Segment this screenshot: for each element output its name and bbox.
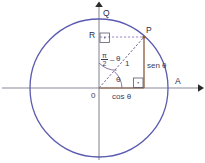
label-angle-theta: θ xyxy=(116,76,120,84)
label-point-a: A xyxy=(175,77,181,86)
label-radius-length: 1 xyxy=(125,60,129,68)
label-point-q: Q xyxy=(103,9,110,18)
point-p-marker xyxy=(142,35,145,38)
label-sine: sen θ xyxy=(147,62,167,70)
right-angle-marker-y-axis xyxy=(100,33,110,43)
label-complement-denominator: 2 xyxy=(101,60,108,67)
label-origin: 0 xyxy=(91,92,95,100)
trigonometry-unit-circle-figure: Q P R A 0 π 2 – θ 1 θ sen θ cos θ xyxy=(0,0,205,163)
right-angle-marker-x-axis xyxy=(134,78,144,88)
label-cosine: cos θ xyxy=(112,93,131,101)
label-point-p: P xyxy=(146,26,152,35)
label-complement-numerator: π xyxy=(101,52,108,60)
label-point-r: R xyxy=(89,31,95,40)
label-complement-theta: θ xyxy=(116,55,120,63)
label-complement-minus: – xyxy=(110,56,114,64)
label-complement-fraction: π 2 xyxy=(101,52,108,67)
y-axis xyxy=(95,2,103,161)
